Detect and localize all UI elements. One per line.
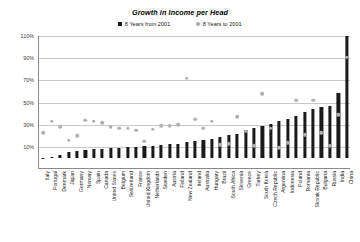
bar-group [326, 36, 334, 168]
chart-title: Growth in Income per Head [0, 8, 360, 17]
bar [101, 149, 104, 158]
x-tick-label: Spain [95, 171, 101, 184]
x-tick-label: Finland [179, 171, 185, 188]
bar-group [157, 36, 165, 168]
bar-group [267, 36, 275, 168]
marker-dot [67, 139, 71, 143]
marker-dot [126, 126, 130, 130]
marker-dot [252, 144, 256, 148]
bar [92, 149, 95, 158]
bar-group [208, 36, 216, 168]
x-tick-label: India [339, 171, 345, 182]
legend-item-bars: 8 Years from 2001 [118, 21, 170, 27]
x-tick-label: United States [111, 171, 117, 202]
bar-group [98, 36, 106, 168]
chart-container: Growth in Income per Head 8 Years from 2… [0, 0, 360, 242]
bar-group [73, 36, 81, 168]
x-tick-label: Indonesia [289, 171, 295, 193]
bar [118, 148, 121, 158]
x-tick-label: Bulgaria [322, 171, 328, 190]
marker-dot [50, 120, 54, 124]
marker-dot [100, 121, 104, 125]
bar-group [106, 36, 114, 168]
bar [42, 158, 45, 159]
x-tick-label: United Kingdom [145, 171, 151, 207]
x-tick-label: Austria [171, 171, 177, 187]
bar-group [317, 36, 325, 168]
bar [244, 130, 247, 158]
bar-group [233, 36, 241, 168]
legend-label-dots: 8 Years to 2001 [203, 21, 242, 27]
bar [210, 139, 213, 158]
marker-dot [41, 131, 45, 135]
bar-group [191, 36, 199, 168]
x-tick-label: Greece [246, 171, 252, 188]
marker-dot [227, 142, 231, 146]
x-tick-label: Czech Republic [272, 171, 278, 207]
legend-item-dots: 8 Years to 2001 [196, 21, 241, 27]
data-series-layer [39, 36, 350, 168]
x-tick-label: Brazil [221, 171, 227, 184]
x-axis-labels: ItalyPortugalDenmarkJapanGermanyNorwaySp… [38, 171, 350, 241]
bar-group [258, 36, 266, 168]
marker-dot [75, 134, 79, 138]
bar [261, 126, 264, 158]
bar [177, 144, 180, 158]
bar [126, 147, 129, 158]
x-tick-label: Norway [86, 171, 92, 188]
x-tick-label: Canada [103, 171, 109, 189]
bar-group [140, 36, 148, 168]
x-tick-label: Japan [69, 171, 75, 185]
marker-dot [269, 126, 273, 130]
bar [286, 119, 289, 158]
x-tick-label: Poland [297, 171, 303, 187]
bar [337, 93, 340, 158]
legend-dot-swatch-icon [196, 22, 200, 26]
marker-dot [143, 140, 147, 144]
x-tick-label: France [137, 171, 143, 187]
marker-dot [337, 113, 341, 117]
bar [58, 155, 61, 158]
x-tick-label: Germany [78, 171, 84, 192]
bar [151, 146, 154, 158]
bar-group [225, 36, 233, 168]
x-tick-label: Ireland [196, 171, 202, 187]
x-tick-label: Belgium [120, 171, 126, 189]
x-tick-label: Slovenia [238, 171, 244, 191]
bar [134, 147, 137, 158]
bar [185, 142, 188, 158]
bar [295, 116, 298, 158]
marker-dot [134, 129, 138, 133]
x-tick-label: Hungary [213, 171, 219, 190]
marker-dot [151, 127, 155, 131]
bar-group [115, 36, 123, 168]
bar-group [334, 36, 342, 168]
x-tick-label: Turkey [255, 171, 261, 186]
bar-group [149, 36, 157, 168]
x-tick-label: Denmark [61, 171, 67, 192]
y-tick-label: 110% [21, 33, 34, 39]
bar [84, 150, 87, 158]
x-tick-label: Slovak Republic [314, 171, 320, 208]
marker-dot [109, 125, 113, 129]
marker-dot [202, 126, 206, 130]
marker-dot [345, 55, 349, 59]
marker-dot [261, 92, 265, 96]
marker-dot [84, 119, 88, 123]
marker-dot [303, 133, 307, 137]
legend-label-bars: 8 Years from 2001 [125, 21, 170, 27]
bar [278, 121, 281, 158]
bar [311, 109, 314, 158]
marker-dot [185, 76, 189, 80]
x-tick-label: Switzerland [128, 171, 134, 197]
marker-dot [294, 99, 298, 103]
marker-dot [320, 131, 324, 135]
bar-group [64, 36, 72, 168]
bar [75, 151, 78, 158]
bar [67, 152, 70, 158]
y-tick-label: 90% [23, 55, 34, 61]
bar [50, 157, 53, 158]
y-axis-labels: 110%90%70%50%30%10% [0, 36, 36, 169]
marker-dot [193, 117, 197, 121]
x-tick-label: New Zealand [187, 171, 193, 201]
